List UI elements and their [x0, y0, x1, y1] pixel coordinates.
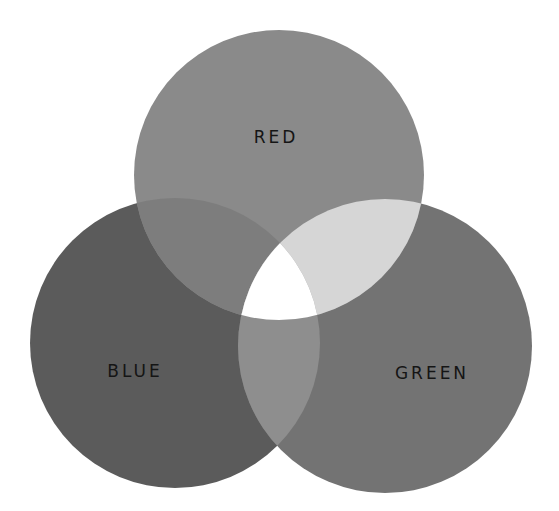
label-green: GREEN [395, 363, 469, 383]
label-red: RED [254, 127, 299, 147]
label-blue: BLUE [107, 361, 162, 381]
venn-diagram: RED BLUE GREEN [0, 0, 559, 511]
